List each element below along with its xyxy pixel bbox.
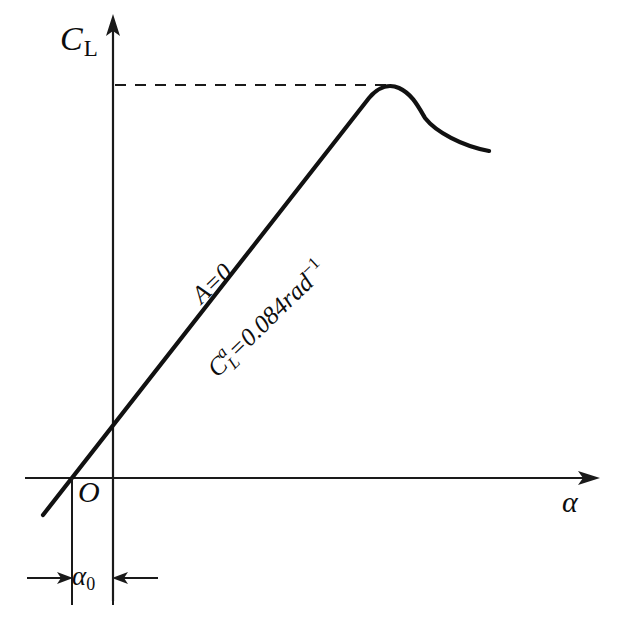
y-axis-label: CL (60, 22, 98, 60)
diagram-canvas (0, 0, 620, 628)
alpha-zero-label: α0 (72, 563, 95, 593)
y-axis-label-sub: L (84, 36, 98, 61)
lift-curve-figure: CL α O α0 A=0 CaL=0.084rad−1 (0, 0, 620, 628)
alpha-zero-symbol: α (72, 561, 86, 591)
alpha-zero-subscript: 0 (86, 574, 95, 594)
origin-label: O (78, 477, 100, 507)
y-axis-label-main: C (60, 20, 83, 57)
x-axis-label: α (562, 487, 578, 517)
x-axis (25, 471, 600, 485)
